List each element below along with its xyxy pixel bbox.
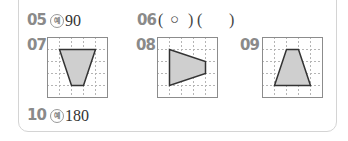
paren-close-2: )	[229, 12, 234, 28]
question-number-08: 08	[136, 38, 155, 53]
paren-close-1: )	[188, 12, 193, 28]
answer-10: 180	[65, 108, 89, 124]
figure-07-trapezoid	[47, 37, 108, 98]
figure-08-trapezoid	[157, 37, 218, 98]
paren-open-1: (	[158, 12, 163, 28]
question-number-07: 07	[27, 38, 46, 53]
answer-05: 90	[65, 13, 81, 29]
circle-mark-icon: ○	[170, 12, 179, 27]
question-number-09: 09	[240, 38, 259, 53]
example-badge-icon: 예	[50, 109, 64, 123]
example-badge-icon: 예	[50, 14, 64, 28]
figure-09-trapezoid	[262, 37, 323, 98]
question-number-05: 05	[27, 13, 46, 28]
paren-open-2: (	[197, 12, 202, 28]
question-number-10: 10	[27, 108, 46, 123]
question-number-06: 06	[137, 13, 156, 28]
